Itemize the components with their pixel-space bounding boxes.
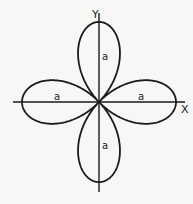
petal-label-left: a xyxy=(54,91,60,102)
y-axis-label: Y xyxy=(91,8,99,21)
petal-label-bottom: a xyxy=(102,140,108,151)
rose-curve-diagram: X Y a a a a xyxy=(0,0,193,204)
petal-label-top: a xyxy=(102,51,108,62)
petal-label-right: a xyxy=(138,91,144,102)
x-axis-label: X xyxy=(181,103,189,116)
